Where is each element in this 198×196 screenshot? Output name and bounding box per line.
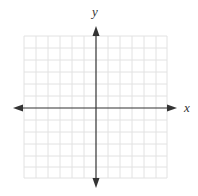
y-axis-down-arrow-icon [93,178,100,188]
x-axis-right-arrow-icon [167,105,177,112]
y-axis-label: y [90,4,98,19]
coordinate-plane: x y [0,0,198,196]
x-axis-label: x [183,100,190,115]
x-axis-left-arrow-icon [13,105,23,112]
y-axis-up-arrow-icon [93,26,100,36]
